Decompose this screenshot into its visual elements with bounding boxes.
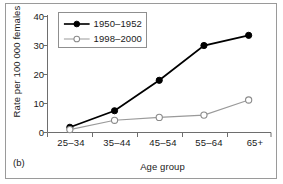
data-point (201, 42, 207, 48)
data-point (111, 117, 117, 123)
data-point (246, 97, 252, 103)
legend-marker-open-circle (63, 33, 91, 45)
chart-legend: 1950–1952 1998–2000 (58, 12, 147, 48)
data-point (67, 127, 73, 133)
legend-label-1950-1952: 1950–1952 (94, 18, 142, 29)
legend-marker-filled-circle (63, 18, 91, 30)
legend-entry-1998-2000: 1998–2000 (63, 31, 142, 46)
series-2 (67, 97, 252, 133)
legend-label-1998-2000: 1998–2000 (94, 33, 142, 44)
legend-entry-1950-1952: 1950–1952 (63, 16, 142, 31)
data-point (156, 114, 162, 120)
data-point (111, 108, 117, 114)
data-point (201, 112, 207, 118)
figure-panel-b: Rate per 100 000 females 40 30 20 10 0 2… (0, 0, 283, 184)
data-point (156, 77, 162, 83)
data-point (246, 32, 252, 38)
